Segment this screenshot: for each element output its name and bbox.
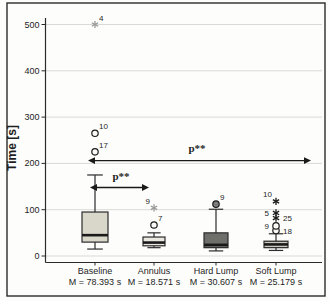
- outlier-label: 9: [265, 222, 270, 231]
- outlier-circle: [92, 149, 98, 155]
- outlier-label: 4: [99, 14, 104, 23]
- arrowhead-right-icon: [142, 184, 149, 191]
- outlier-circle: [92, 130, 98, 136]
- outlier-label: 10: [99, 122, 108, 131]
- figure-border: [7, 3, 325, 296]
- y-tick-label: 100: [24, 205, 39, 215]
- category-mean-label: M = 25.179 s: [250, 277, 303, 287]
- extreme-asterisk: [273, 209, 279, 216]
- p-value-label: p**: [112, 170, 130, 182]
- y-axis-title: Time [s]: [5, 125, 19, 171]
- outlier-label: 25: [283, 214, 292, 223]
- y-tick-label: 500: [24, 20, 39, 30]
- outlier-label: 5: [265, 209, 270, 218]
- outlier-label: 9: [146, 197, 151, 206]
- category-label: Annulus: [138, 266, 171, 276]
- outlier-circle: [151, 222, 157, 228]
- outlier-label: 10: [263, 190, 272, 199]
- outlier-circle: [213, 201, 219, 207]
- arrowhead-left-icon: [90, 184, 97, 191]
- category-mean-label: M = 30.607 s: [190, 277, 243, 287]
- category-mean-label: M = 18.571 s: [128, 277, 181, 287]
- box-baseline: [82, 212, 108, 242]
- y-tick-label: 400: [24, 66, 39, 76]
- category-label: Soft Lump: [255, 266, 296, 276]
- outlier-label: 18: [283, 227, 292, 236]
- y-tick-label: 200: [24, 158, 39, 168]
- boxplot-figure: 0100200300400500Time [s]17104BaselineM =…: [0, 0, 329, 301]
- p-value-label: p**: [188, 142, 206, 154]
- boxplot-chart: 0100200300400500Time [s]17104BaselineM =…: [0, 0, 329, 301]
- category-label: Baseline: [78, 266, 113, 276]
- outlier-circle: [273, 223, 279, 229]
- category-mean-label: M = 78.393 s: [69, 277, 122, 287]
- y-tick-label: 0: [34, 251, 39, 261]
- significance-arrow: [90, 184, 149, 191]
- outlier-label: 7: [158, 214, 163, 223]
- extreme-asterisk: [151, 204, 157, 211]
- outlier-label: 9: [220, 193, 225, 202]
- extreme-asterisk: [273, 198, 279, 205]
- outlier-label: 17: [99, 141, 108, 150]
- y-tick-label: 300: [24, 112, 39, 122]
- category-label: Hard Lump: [194, 266, 239, 276]
